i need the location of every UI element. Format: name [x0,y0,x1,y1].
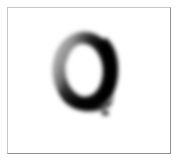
digit-canvas [8,8,170,153]
ink-strokes [49,29,121,116]
image-frame-border [7,7,171,154]
ink-speck [102,111,109,116]
image-viewport [0,0,179,163]
handwritten-digit-zero-graphic [8,8,170,153]
